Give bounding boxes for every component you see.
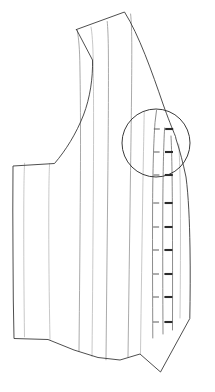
corset-pattern-drawing xyxy=(0,0,215,392)
pattern-illustration: Corset front panel pattern line drawing xyxy=(0,0,215,392)
